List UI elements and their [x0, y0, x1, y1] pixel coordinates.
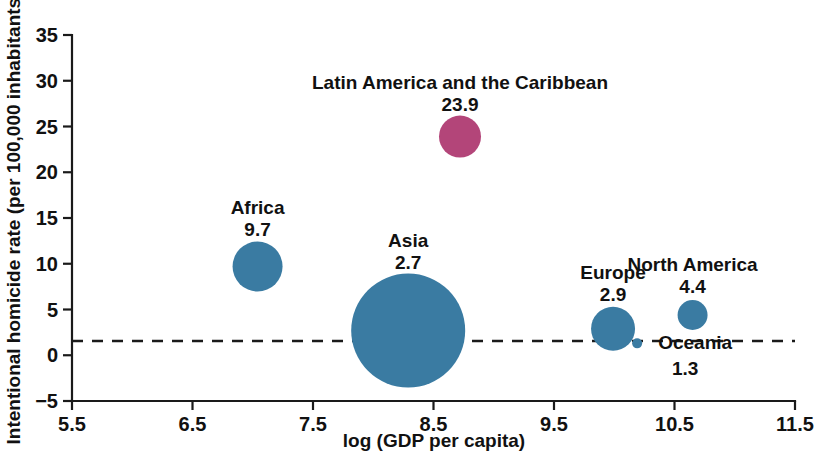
x-tick-label: 5.5	[58, 413, 86, 435]
x-axis-title: log (GDP per capita)	[343, 430, 525, 451]
bubble-label-name: Latin America and the Caribbean	[312, 72, 608, 93]
y-axis-ticks: 35302520151050−5	[35, 24, 72, 412]
bubble-circle[interactable]	[439, 116, 481, 158]
bubble-label-value: 23.9	[442, 94, 479, 115]
bubble-label-value: 4.4	[679, 276, 706, 297]
y-tick-label: 5	[47, 299, 58, 321]
bubble-group: Oceania1.3	[632, 332, 732, 379]
bubble-group: Europe2.9	[580, 262, 645, 351]
bubble-label-name: Oceania	[658, 332, 732, 353]
x-tick-label: 10.5	[655, 413, 694, 435]
bubble-label-name: North America	[627, 254, 758, 275]
bubble-circle[interactable]	[632, 338, 642, 348]
y-axis-title: Intentional homicide rate (per 100,000 i…	[3, 0, 24, 444]
y-tick-label: 15	[36, 207, 58, 229]
bubble-group: Latin America and the Caribbean23.9	[312, 72, 608, 158]
x-tick-label: 11.5	[776, 413, 814, 435]
x-tick-label: 9.5	[540, 413, 568, 435]
chart-container: 35302520151050−5 5.56.57.58.59.510.511.5…	[0, 0, 818, 463]
y-tick-label: 0	[47, 344, 58, 366]
bubble-label-name: Asia	[388, 230, 429, 251]
x-tick-label: 7.5	[299, 413, 327, 435]
bubble-label-value: 2.9	[600, 284, 626, 305]
bubble-circle[interactable]	[678, 300, 708, 330]
y-tick-label: 25	[36, 116, 58, 138]
y-tick-label: −5	[35, 390, 58, 412]
bubble-group: North America4.4	[627, 254, 758, 330]
x-tick-label: 6.5	[179, 413, 207, 435]
y-tick-label: 20	[36, 161, 58, 183]
bubble-label-name: Africa	[231, 197, 285, 218]
bubble-chart-plot: 35302520151050−5 5.56.57.58.59.510.511.5…	[0, 0, 818, 463]
y-tick-label: 30	[36, 70, 58, 92]
y-tick-label: 10	[36, 253, 58, 275]
bubble-group: Asia2.7	[351, 230, 465, 388]
bubble-circle[interactable]	[351, 274, 465, 388]
bubble-circle[interactable]	[233, 241, 283, 291]
bubble-label-value: 1.3	[672, 358, 698, 379]
bubble-circle[interactable]	[591, 307, 635, 351]
bubble-label-value: 9.7	[244, 219, 270, 240]
bubble-group: Africa9.7	[231, 197, 285, 291]
bubble-label-value: 2.7	[395, 252, 421, 273]
y-tick-label: 35	[36, 24, 58, 46]
